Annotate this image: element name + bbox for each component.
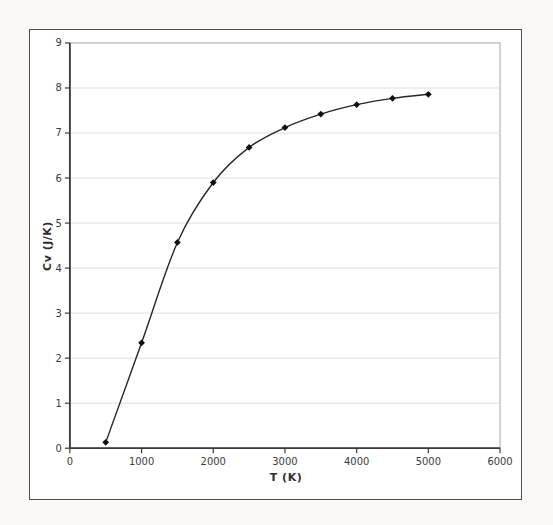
y-tick-label: 2: [56, 353, 62, 364]
x-tick-label: 0: [67, 456, 73, 467]
x-axis-title: T (K): [70, 471, 502, 484]
y-tick-label: 7: [56, 127, 62, 138]
y-tick-label: 4: [56, 263, 62, 274]
y-axis-title: Cv (J/K): [41, 221, 54, 271]
y-tick-label: 9: [56, 37, 62, 48]
chart-frame: 01234567890100020003000400050006000 T (K…: [29, 29, 522, 500]
y-tick-label: 0: [56, 443, 62, 454]
x-tick-label: 2000: [201, 456, 226, 467]
x-tick-label: 5000: [416, 456, 441, 467]
x-tick-label: 4000: [344, 456, 369, 467]
y-tick-label: 3: [56, 308, 62, 319]
y-tick-label: 1: [56, 398, 62, 409]
line-chart-canvas: 01234567890100020003000400050006000: [30, 30, 521, 499]
y-tick-label: 5: [56, 218, 62, 229]
x-tick-label: 1000: [129, 456, 154, 467]
plot-area: [70, 43, 500, 448]
y-tick-label: 6: [56, 173, 62, 184]
page-background: 01234567890100020003000400050006000 T (K…: [0, 0, 553, 525]
x-tick-label: 6000: [487, 456, 512, 467]
y-tick-label: 8: [56, 82, 62, 93]
x-tick-label: 3000: [272, 456, 297, 467]
